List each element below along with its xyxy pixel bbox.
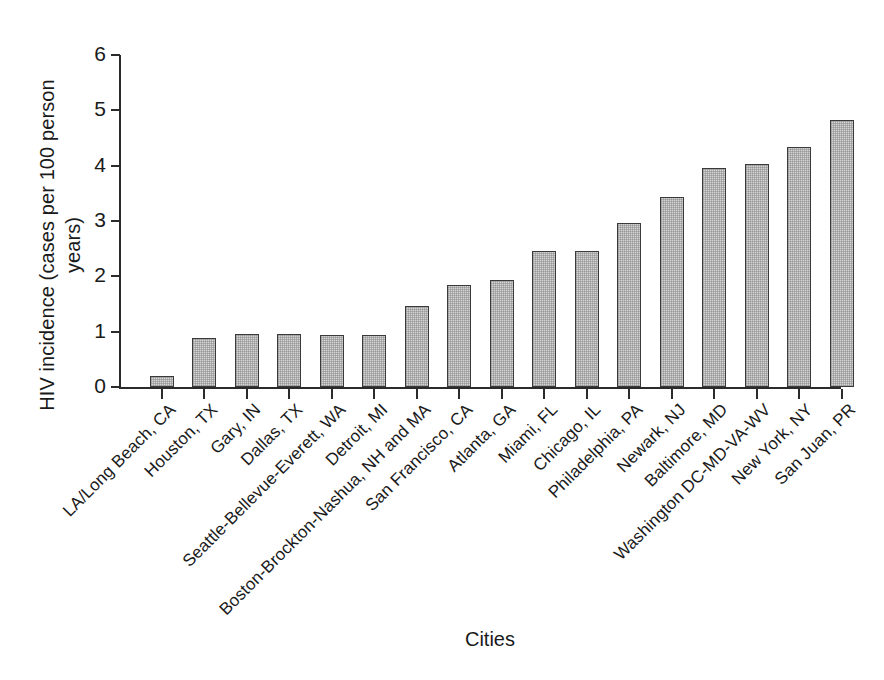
x-tick-mark — [543, 389, 545, 399]
bar — [320, 335, 344, 387]
x-tick-mark — [416, 389, 418, 399]
bar — [830, 120, 854, 387]
bar — [405, 306, 429, 387]
y-tick-mark — [111, 275, 120, 277]
bar — [150, 376, 174, 387]
bar — [787, 147, 811, 387]
x-tick-mark — [161, 389, 163, 399]
y-tick-mark — [111, 109, 120, 111]
x-tick-mark — [203, 389, 205, 399]
bar — [575, 251, 599, 387]
x-tick-mark — [288, 389, 290, 399]
y-tick-mark — [111, 54, 120, 56]
x-tick-mark — [713, 389, 715, 399]
y-tick-label: 5 — [82, 97, 106, 121]
bar — [362, 335, 386, 387]
bar — [702, 168, 726, 387]
bar — [745, 164, 769, 387]
bar — [447, 285, 471, 387]
x-tick-mark — [373, 389, 375, 399]
bar — [660, 197, 684, 387]
y-axis-line — [119, 55, 121, 389]
x-tick-mark — [841, 389, 843, 399]
hiv-incidence-bar-chart: HIV incidence (cases per 100 person year… — [0, 0, 884, 680]
bar — [490, 280, 514, 387]
bar — [192, 338, 216, 387]
x-tick-mark — [331, 389, 333, 399]
y-tick-label: 2 — [82, 263, 106, 287]
y-axis-title: HIV incidence (cases per 100 person year… — [30, 55, 90, 435]
x-tick-mark — [756, 389, 758, 399]
x-tick-mark — [798, 389, 800, 399]
bar — [532, 251, 556, 387]
bar — [617, 223, 641, 387]
y-tick-label: 3 — [82, 208, 106, 232]
x-axis-line — [119, 387, 841, 389]
y-tick-label: 4 — [82, 153, 106, 177]
bar — [235, 334, 259, 387]
y-tick-label: 6 — [82, 42, 106, 66]
y-tick-mark — [111, 331, 120, 333]
y-tick-mark — [111, 220, 120, 222]
y-tick-label: 0 — [82, 374, 106, 398]
y-tick-mark — [111, 386, 120, 388]
x-tick-mark — [586, 389, 588, 399]
x-axis-title: Cities — [0, 628, 884, 651]
y-axis-title-text: HIV incidence (cases per 100 person year… — [34, 79, 86, 410]
y-tick-label: 1 — [82, 319, 106, 343]
y-tick-mark — [111, 165, 120, 167]
bar — [277, 334, 301, 387]
x-tick-mark — [246, 389, 248, 399]
x-tick-mark — [501, 389, 503, 399]
x-axis-title-text: Cities — [369, 628, 515, 651]
x-tick-mark — [671, 389, 673, 399]
x-tick-mark — [458, 389, 460, 399]
x-tick-mark — [628, 389, 630, 399]
